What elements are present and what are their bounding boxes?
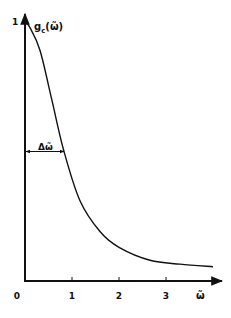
x-tick-label: 3 [163,292,169,301]
x-axis-label: ω̃ [196,291,205,301]
x-tick-label: 0 [14,292,20,301]
y-top-label: 1 [12,18,18,27]
curve-line [25,22,213,267]
x-tick-label: 1 [69,292,75,301]
y-axis-arg: (ω̃) [45,21,63,32]
delta-label: Δω̃ [38,143,53,152]
chart-canvas [0,0,231,318]
x-tick-label: 2 [116,292,122,301]
y-axis-label: gc(ω̃) [34,22,63,35]
